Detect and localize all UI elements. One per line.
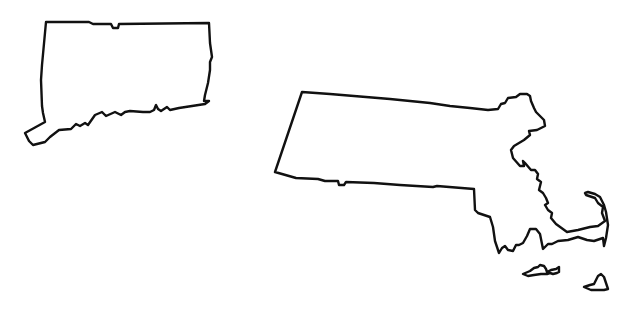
map-canvas — [0, 0, 631, 314]
nantucket-outline — [584, 274, 608, 290]
marthas-vineyard-outline — [523, 265, 559, 276]
massachusetts-mainland-outline — [275, 92, 608, 253]
connecticut-outline — [25, 22, 212, 145]
